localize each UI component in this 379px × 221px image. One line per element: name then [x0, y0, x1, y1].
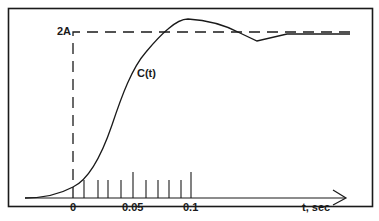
curve-label: C(t) [137, 68, 156, 79]
tick-label-0: 0 [70, 202, 76, 213]
x-axis-label: t, sec [302, 202, 330, 213]
tick-label-0-05: 0.05 [122, 202, 143, 213]
tick-label-0-1: 0.1 [183, 202, 198, 213]
step-input-dashed [73, 32, 350, 198]
axis-ticks [84, 172, 191, 198]
response-curve [25, 19, 350, 198]
step-level-label: 2A [57, 26, 71, 37]
